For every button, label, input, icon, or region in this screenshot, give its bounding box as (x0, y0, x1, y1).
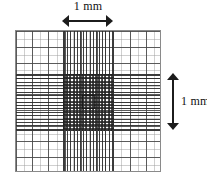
scale-arrow-right (166, 73, 180, 130)
scale-arrow-top (62, 14, 113, 28)
scale-label-top: 1 mm (58, 0, 118, 14)
center-cell (82, 95, 95, 109)
figure-root: 1 mm 1 mm (0, 0, 207, 182)
arrow-head-right-icon (106, 15, 113, 27)
counting-grid (15, 30, 161, 172)
scale-label-right: 1 mm (181, 94, 207, 109)
arrow-shaft-vertical (172, 77, 174, 126)
arrow-shaft-horizontal (66, 20, 109, 22)
arrow-head-down-icon (167, 123, 179, 130)
